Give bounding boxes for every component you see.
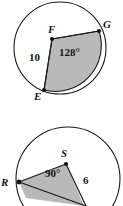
point-f-dot (50, 37, 54, 41)
circle-efg-graphic (0, 0, 123, 103)
point-g-dot (97, 29, 101, 33)
figure-circle-efg: F G E 128° 10 (0, 0, 123, 103)
point-s-dot (64, 162, 68, 166)
point-e-dot (42, 88, 46, 92)
circle-rs-graphic (0, 103, 123, 206)
point-r-dot (17, 180, 22, 185)
diagram-page: F G E 128° 10 S R 90° 6 (0, 0, 123, 206)
figure-circle-rs: S R 90° 6 (0, 103, 123, 206)
